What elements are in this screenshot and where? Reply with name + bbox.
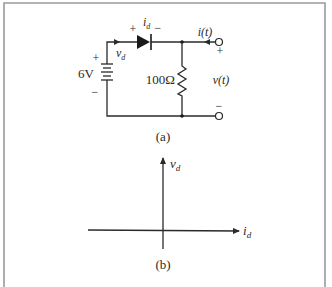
resistor-label: 100Ω: [146, 72, 175, 87]
output-minus-label: −: [216, 99, 223, 113]
x-axis: [88, 230, 239, 231]
resistor-symbol: [178, 42, 186, 116]
diode-current-label: id: [143, 15, 151, 31]
circuit-diagram: + 6V − + id − vd 100Ω i(t) + v(t) − (a): [78, 15, 229, 144]
figure-canvas: + 6V − + id − vd 100Ω i(t) + v(t) − (a) …: [0, 0, 332, 287]
diode-minus-label: −: [155, 21, 162, 35]
caption-a: (a): [156, 129, 170, 144]
node-bottom: [180, 114, 184, 118]
source-minus-label: −: [92, 85, 99, 99]
source-plus-label: +: [93, 51, 100, 65]
figure-frame: [4, 3, 325, 287]
output-voltage-label: v(t): [213, 73, 230, 87]
diode-plus-label: +: [130, 22, 137, 36]
battery-symbol: [101, 64, 113, 80]
diode-triangle-icon: [137, 35, 150, 49]
x-axis-label: id: [243, 223, 252, 240]
source-voltage-label: 6V: [78, 66, 95, 81]
terminal-bottom[interactable]: [216, 113, 223, 120]
diode-voltage-label: vd: [116, 46, 126, 62]
diode-symbol: [137, 34, 151, 50]
it-arrow-icon: [204, 39, 210, 45]
y-axis-label: vd: [170, 156, 181, 173]
output-current-label: i(t): [198, 25, 213, 39]
axes-diagram: vd id (b): [88, 156, 252, 272]
vd-arrow-icon: [114, 39, 120, 45]
caption-b: (b): [155, 257, 170, 272]
output-plus-label: +: [217, 44, 224, 58]
